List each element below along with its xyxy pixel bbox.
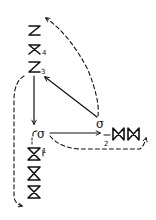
label-3: 3 — [41, 68, 45, 76]
arrow-loop-to-3 — [45, 77, 97, 117]
top-column — [29, 26, 40, 72]
knot-diagram: 4 3 σ σ 2 1 — [0, 0, 156, 220]
bottom-column — [28, 148, 40, 198]
right-row — [113, 128, 139, 140]
bowtie-icon — [28, 167, 40, 180]
bowtie-icon — [29, 26, 40, 35]
label-4: 4 — [42, 49, 47, 57]
dashed-loop-top — [46, 18, 98, 116]
loop-right-node: σ — [96, 117, 104, 131]
bowtie-icon — [29, 62, 40, 72]
dashed-left-side — [14, 76, 24, 206]
bowtie-icon — [29, 45, 40, 54]
bowtie-icon — [113, 128, 124, 140]
loop-left-node: σ — [37, 127, 45, 141]
dashed-bottom-curve — [50, 136, 146, 149]
bowtie-icon — [128, 128, 139, 140]
bowtie-icon — [28, 186, 40, 198]
label-2: 2 — [104, 140, 108, 148]
bowtie-icon — [28, 148, 40, 160]
